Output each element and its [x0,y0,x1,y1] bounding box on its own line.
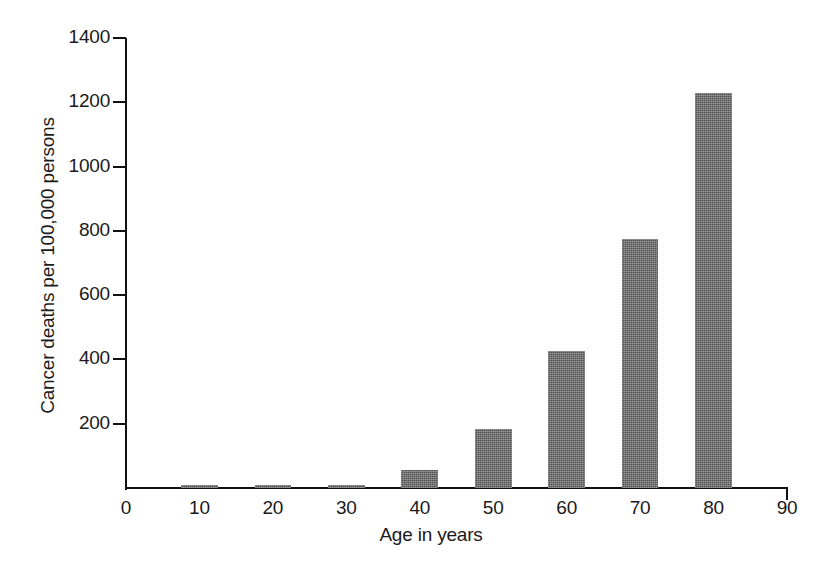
x-tick-label-40: 40 [390,497,450,519]
x-tick-label-10: 10 [169,497,229,519]
bar-age-50 [475,429,512,488]
x-tick-label-80: 80 [684,497,744,519]
y-tick-label-1000: 1000 [52,156,110,175]
y-axis-line [125,38,127,490]
y-tick-label-1200: 1200 [52,91,110,110]
x-tick-label-0: 0 [96,497,156,519]
y-tick-label-1400: 1400 [52,27,110,46]
bar-age-10 [181,485,218,488]
y-tick-label-wrap: 200 [40,413,110,432]
x-tick-label-20: 20 [243,497,303,519]
bar-age-30 [328,485,365,488]
x-tick-label-30: 30 [316,497,376,519]
x-tick-label-60: 60 [537,497,597,519]
x-axis-title: Age in years [379,524,482,545]
bar-age-20 [255,485,292,488]
bar-age-80 [695,93,732,488]
y-tick-label-600: 600 [52,284,110,303]
y-tick-label-wrap: 400 [40,348,110,367]
y-tick-label-800: 800 [52,220,110,239]
bar-chart-figure: Cancer deaths per 100,000 persons 200400… [0,0,840,570]
bar-age-60 [548,351,585,488]
y-tick-label-400: 400 [52,348,110,367]
y-tick-label-wrap: 800 [40,220,110,239]
x-tick-label-70: 70 [610,497,670,519]
y-tick-label-wrap: 1000 [40,156,110,175]
x-tick-label-90: 90 [757,497,817,519]
x-tick-label-50: 50 [463,497,523,519]
y-tick-label-wrap: 1200 [40,91,110,110]
bar-age-40 [401,470,438,488]
y-tick-label-200: 200 [52,413,110,432]
y-tick-label-wrap: 600 [40,284,110,303]
y-tick-label-wrap: 1400 [40,27,110,46]
x-axis-line [125,487,788,489]
x-axis-title-wrap: Age in years [0,524,840,545]
bar-age-70 [622,239,659,488]
